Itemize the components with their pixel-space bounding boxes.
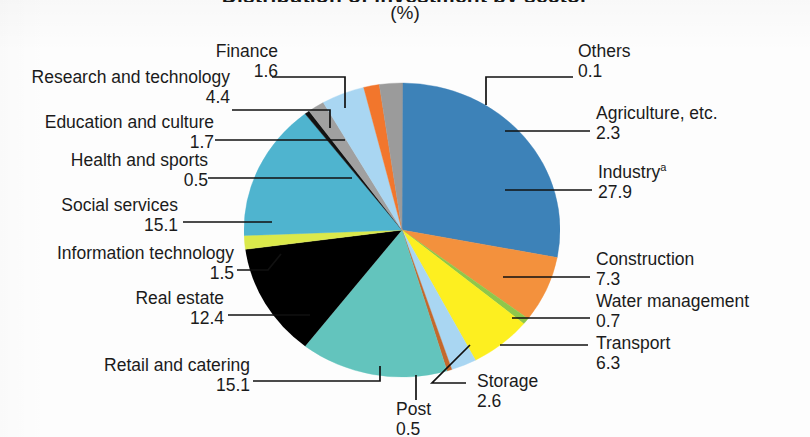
- callout-value-retail-and-catering: 15.1: [72, 376, 250, 396]
- callout-label-industry: Industrya: [598, 163, 666, 183]
- callout-post: Post 0.5: [396, 400, 431, 437]
- callout-label-information-technology: Information technology: [2, 244, 234, 264]
- callout-label-others: Others: [578, 42, 631, 62]
- callout-value-post: 0.5: [396, 420, 431, 437]
- callout-label-education-and-culture: Education and culture: [18, 113, 214, 133]
- callout-label-water-management: Water management: [596, 292, 749, 312]
- callout-label-retail-and-catering: Retail and catering: [72, 356, 250, 376]
- callout-value-agriculture: 2.3: [596, 124, 718, 144]
- callout-label-finance: Finance: [118, 42, 278, 62]
- callout-label-real-estate: Real estate: [60, 289, 224, 309]
- callout-value-social-services: 15.1: [0, 216, 178, 236]
- callout-social-services: Social services 15.1: [0, 196, 178, 235]
- callout-transport: Transport 6.3: [596, 334, 670, 373]
- callout-agriculture: Agriculture, etc. 2.3: [596, 104, 718, 143]
- footnote-marker-a: a: [660, 161, 666, 173]
- callout-retail-and-catering: Retail and catering 15.1: [72, 356, 250, 395]
- callout-real-estate: Real estate 12.4: [60, 289, 224, 328]
- callout-value-health-and-sports: 0.5: [40, 171, 208, 191]
- callout-value-transport: 6.3: [596, 354, 670, 374]
- callout-health-and-sports: Health and sports 0.5: [40, 151, 208, 190]
- callout-value-information-technology: 1.5: [2, 264, 234, 284]
- pie-chart-figure: Distribution of investment by sector (%): [0, 0, 810, 437]
- callout-others: Others 0.1: [578, 42, 631, 81]
- callout-value-storage: 2.6: [477, 392, 538, 412]
- callout-education-and-culture: Education and culture 1.7: [18, 113, 214, 152]
- callout-value-industry: 27.9: [598, 183, 666, 203]
- callout-value-research-and-technology: 4.4: [8, 88, 230, 108]
- callout-label-health-and-sports: Health and sports: [40, 151, 208, 171]
- callout-construction: Construction 7.3: [596, 250, 694, 289]
- callout-label-research-and-technology: Research and technology: [8, 68, 230, 88]
- callout-label-agriculture: Agriculture, etc.: [596, 104, 718, 124]
- callout-water-management: Water management 0.7: [596, 292, 749, 331]
- callout-label-transport: Transport: [596, 334, 670, 354]
- pie-slice-group: [244, 83, 560, 377]
- callout-value-real-estate: 12.4: [60, 309, 224, 329]
- callout-label-construction: Construction: [596, 250, 694, 270]
- unit-label: (%): [0, 2, 810, 24]
- callout-research-and-technology: Research and technology 4.4: [8, 68, 230, 107]
- callout-information-technology: Information technology 1.5: [2, 244, 234, 283]
- callout-value-construction: 7.3: [596, 270, 694, 290]
- pie-slice-industry[interactable]: [402, 83, 560, 258]
- callout-industry: Industrya 27.9: [598, 163, 666, 202]
- callout-value-water-management: 0.7: [596, 312, 749, 332]
- callout-label-social-services: Social services: [0, 196, 178, 216]
- pie-svg: [244, 82, 560, 378]
- callout-value-others: 0.1: [578, 62, 631, 82]
- callout-label-post: Post: [396, 400, 431, 420]
- callout-label-industry-text: Industry: [598, 162, 660, 182]
- callout-label-storage: Storage: [477, 372, 538, 392]
- pie-chart: [244, 82, 560, 378]
- callout-storage: Storage 2.6: [477, 372, 538, 411]
